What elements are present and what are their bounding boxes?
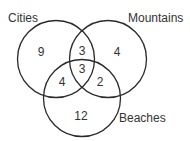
region-mountains-beaches: 2: [97, 75, 104, 89]
region-cities-only: 9: [38, 45, 45, 59]
region-cities-mountains: 3: [79, 44, 86, 58]
beaches-label: Beaches: [119, 111, 166, 125]
region-beaches-only: 12: [74, 109, 88, 123]
region-all-three: 3: [79, 62, 86, 76]
region-mountains-only: 4: [114, 45, 121, 59]
cities-label: Cities: [8, 11, 38, 25]
region-cities-beaches: 4: [59, 75, 66, 89]
mountains-label: Mountains: [128, 11, 183, 25]
venn-diagram: Cities Mountains Beaches 9 4 12 3 4 2 3: [0, 0, 190, 141]
